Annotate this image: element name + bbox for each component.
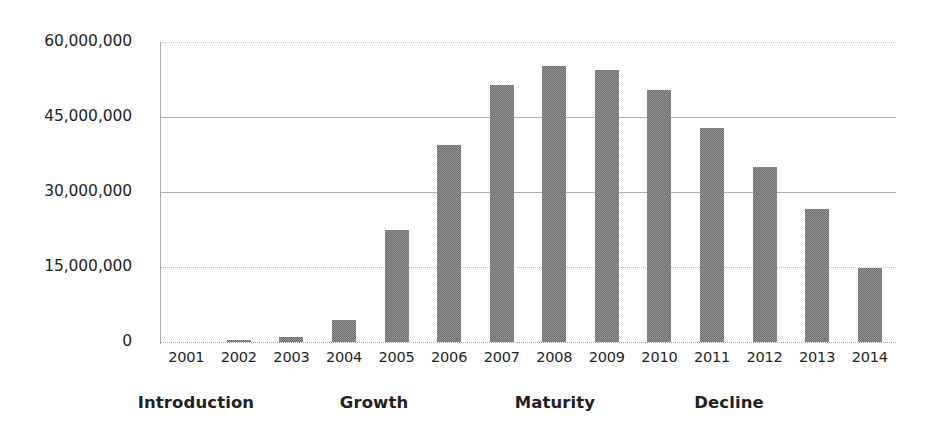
bar-column (437, 42, 461, 342)
bar-column (385, 42, 409, 342)
bar-column (542, 42, 566, 342)
x-axis-tick-label: 2002 (213, 348, 266, 367)
x-axis-tick-label: 2014 (843, 348, 896, 367)
bar (279, 337, 303, 342)
y-axis-tick-label: 45,000,000 (0, 109, 132, 125)
bar (700, 128, 724, 342)
y-axis-tick-label: 0 (0, 334, 132, 350)
bar-column (174, 42, 198, 342)
x-axis: 2001200220032004200520062007200820092010… (160, 348, 896, 374)
stage-label: Decline (629, 392, 829, 413)
bar (595, 70, 619, 343)
x-axis-tick-label: 2003 (265, 348, 318, 367)
x-axis-tick-label: 2006 (423, 348, 476, 367)
bar-column (227, 42, 251, 342)
x-axis-tick-label: 2011 (686, 348, 739, 367)
bar (437, 145, 461, 343)
x-axis-tick-label: 2009 (581, 348, 634, 367)
y-axis-tick-label: 30,000,000 (0, 184, 132, 200)
bar-column (805, 42, 829, 342)
bar (805, 209, 829, 342)
bar-column (858, 42, 882, 342)
stage-label: Growth (274, 392, 474, 413)
bar (753, 167, 777, 342)
y-axis-tick-label: 60,000,000 (0, 34, 132, 50)
x-axis-tick-label: 2010 (633, 348, 686, 367)
bar (385, 230, 409, 343)
bar (647, 90, 671, 343)
bar-column (700, 42, 724, 342)
bar (332, 320, 356, 343)
bar (490, 85, 514, 343)
life-cycle-stage-labels: IntroductionGrowthMaturityDecline (0, 392, 936, 422)
bar-column (647, 42, 671, 342)
bar-column (753, 42, 777, 342)
x-axis-tick-label: 2007 (475, 348, 528, 367)
x-axis-tick-label: 2013 (791, 348, 844, 367)
x-axis-tick-label: 2005 (370, 348, 423, 367)
x-axis-tick-label: 2001 (160, 348, 213, 367)
y-axis-tick-label: 15,000,000 (0, 259, 132, 275)
x-axis-tick-label: 2012 (738, 348, 791, 367)
x-axis-tick-label: 2008 (528, 348, 581, 367)
bar-column (490, 42, 514, 342)
bars-layer (160, 42, 896, 342)
x-axis-line (160, 342, 896, 343)
stage-label: Maturity (455, 392, 655, 413)
bar-column (279, 42, 303, 342)
bar (542, 66, 566, 343)
product-life-cycle-bar-chart: 60,000,00045,000,00030,000,00015,000,000… (0, 0, 936, 443)
y-axis: 60,000,00045,000,00030,000,00015,000,000… (0, 0, 132, 443)
bar-column (332, 42, 356, 342)
bar-column (595, 42, 619, 342)
bar (227, 340, 251, 342)
bar (858, 268, 882, 342)
x-axis-tick-label: 2004 (318, 348, 371, 367)
stage-label: Introduction (96, 392, 296, 413)
